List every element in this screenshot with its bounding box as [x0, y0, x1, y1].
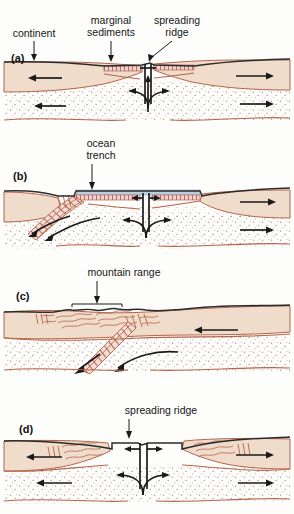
upwelling-arrowhead-a	[145, 75, 151, 82]
label-marginal-sediments-line1-a: marginal	[91, 14, 131, 26]
label-ocean-trench-line1-b: ocean	[87, 137, 116, 149]
panel-a: (a) continent marginal sediments spreadi…	[0, 0, 294, 130]
panel-label-b: (b)	[13, 170, 27, 182]
leader-head-marginal-sediments-a	[108, 55, 114, 62]
label-marginal-sediments-line2-a: sediments	[87, 26, 135, 38]
panel-d: (d) spreading ridge	[0, 385, 294, 514]
label-continent-a: continent	[13, 27, 56, 39]
leader-spreading-ridge-a	[152, 41, 172, 57]
panel-label-c: (c)	[16, 290, 30, 302]
continent-right-d	[182, 438, 290, 469]
mountain-extent-bracket-c	[72, 304, 122, 307]
oceanic-crust-left-b	[76, 195, 140, 200]
label-spreading-ridge-line2-a: ridge	[165, 26, 189, 38]
leader-head-spreading-ridge-a	[148, 54, 154, 62]
label-ocean-trench-line2-b: trench	[86, 149, 115, 161]
wilson-cycle-figure: (a) continent marginal sediments spreadi…	[0, 0, 294, 514]
panel-b: (b) ocean trench	[0, 130, 294, 260]
panel-c: (c) mountain range	[0, 260, 294, 385]
label-mountain-range-c: mountain range	[88, 266, 161, 278]
rift-crest-right-head-d	[156, 446, 163, 452]
leader-head-continent-a	[31, 54, 37, 61]
rift-crest-left-head-d	[124, 446, 131, 452]
leader-head-spreading-ridge-d	[126, 431, 132, 439]
oceanic-crust-left-a	[104, 66, 142, 71]
panel-label-a: (a)	[11, 52, 25, 64]
leader-head-mountain-range-c	[94, 296, 100, 304]
asthenosphere-c	[4, 334, 290, 373]
panel-label-d: (d)	[19, 423, 33, 435]
leader-head-ocean-trench-b	[89, 182, 95, 190]
label-spreading-ridge-line1-a: spreading	[154, 14, 200, 26]
label-spreading-ridge-d: spreading ridge	[125, 404, 198, 416]
